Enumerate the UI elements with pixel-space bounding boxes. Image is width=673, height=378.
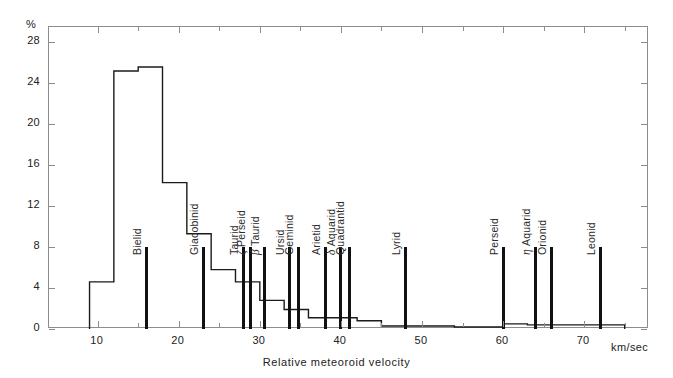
shower-label-perseid: Perseid (488, 218, 500, 255)
x-tick-minor-55 (463, 323, 464, 327)
shower-marker-perseid (502, 247, 505, 329)
shower-label-quadrantid: Quadrantid (334, 201, 346, 255)
greek-letter-glyph: β (249, 249, 261, 255)
shower-label-beta-taurid: β Taurid (249, 216, 261, 255)
x-tick-50 (422, 27, 423, 33)
x-tick-30 (260, 27, 261, 33)
x-tick-60 (503, 27, 504, 33)
x-tick-label-30: 30 (239, 334, 279, 346)
shower-marker-quadrantid (348, 247, 351, 329)
y-tick-16 (49, 165, 55, 166)
x-tick-20 (179, 321, 180, 327)
x-tick-minor-75 (625, 27, 626, 31)
x-tick-label-70: 70 (563, 334, 603, 346)
shower-marker-ursid (288, 247, 291, 329)
x-tick-40 (341, 321, 342, 327)
y-tick-24 (49, 83, 55, 84)
shower-label-arietid: Arietid (310, 224, 322, 255)
shower-label-giacobinid: Giacobinid (188, 203, 200, 255)
histogram-step-path (90, 67, 625, 329)
y-tick-0 (49, 329, 55, 330)
x-tick-minor-35 (300, 27, 301, 31)
plot-area: BielidGiacobinidTauridζ Perseidβ TauridU… (48, 26, 648, 328)
greek-letter-glyph: ζ (235, 250, 247, 255)
x-axis-unit-label: km/sec (611, 341, 648, 353)
y-tick-12 (641, 206, 647, 207)
x-axis-title: Relative meteoroid velocity (0, 356, 673, 368)
x-tick-10 (98, 27, 99, 33)
y-tick-label-4: 4 (10, 280, 40, 292)
y-tick-20 (641, 124, 647, 125)
y-tick-28 (641, 42, 647, 43)
y-tick-0 (641, 329, 647, 330)
x-tick-40 (341, 27, 342, 33)
shower-marker-bielid (145, 247, 148, 329)
y-tick-28 (49, 42, 55, 43)
shower-marker-giacobinid (202, 247, 205, 329)
x-tick-minor-15 (138, 27, 139, 31)
x-tick-label-20: 20 (158, 334, 198, 346)
y-tick-12 (49, 206, 55, 207)
y-tick-label-12: 12 (10, 198, 40, 210)
y-tick-label-24: 24 (10, 75, 40, 87)
x-tick-minor-15 (138, 323, 139, 327)
greek-letter-glyph: η (520, 249, 532, 255)
shower-marker-zeta-perseid (249, 247, 252, 329)
x-tick-minor-75 (625, 323, 626, 327)
y-tick-24 (641, 83, 647, 84)
x-tick-minor-65 (544, 27, 545, 31)
shower-marker-geminid (297, 247, 300, 329)
x-tick-70 (584, 27, 585, 33)
shower-marker-orionid (550, 247, 553, 329)
y-tick-20 (49, 124, 55, 125)
y-axis-unit-label: % (26, 18, 36, 30)
y-tick-label-20: 20 (10, 116, 40, 128)
x-tick-20 (179, 27, 180, 33)
shower-marker-beta-taurid (263, 247, 266, 329)
x-tick-minor-45 (381, 27, 382, 31)
x-tick-label-40: 40 (320, 334, 360, 346)
shower-marker-arietid (324, 247, 327, 329)
x-tick-50 (422, 321, 423, 327)
y-tick-4 (49, 288, 55, 289)
x-tick-10 (98, 321, 99, 327)
x-tick-minor-35 (300, 323, 301, 327)
shower-label-lyrid: Lyrid (390, 232, 402, 255)
shower-label-geminid: Geminid (283, 215, 295, 256)
y-tick-8 (641, 247, 647, 248)
shower-label-eta-aquarid: η Aquarid (520, 208, 532, 255)
x-tick-70 (584, 321, 585, 327)
x-tick-label-50: 50 (401, 334, 441, 346)
shower-label-leonid: Leonid (585, 222, 597, 255)
y-tick-4 (641, 288, 647, 289)
y-tick-label-8: 8 (10, 239, 40, 251)
y-tick-8 (49, 247, 55, 248)
y-tick-label-16: 16 (10, 157, 40, 169)
x-tick-60 (503, 321, 504, 327)
x-tick-minor-25 (219, 27, 220, 31)
x-tick-minor-55 (463, 27, 464, 31)
y-tick-label-0: 0 (10, 321, 40, 333)
shower-label-orionid: Orionid (536, 220, 548, 255)
shower-marker-leonid (599, 247, 602, 329)
shower-marker-eta-aquarid (534, 247, 537, 329)
shower-label-bielid: Bielid (131, 228, 143, 255)
shower-marker-taurid (242, 247, 245, 329)
x-tick-label-10: 10 (77, 334, 117, 346)
x-tick-minor-45 (381, 323, 382, 327)
x-tick-minor-65 (544, 323, 545, 327)
x-tick-30 (260, 321, 261, 327)
y-tick-label-28: 28 (10, 34, 40, 46)
x-tick-label-60: 60 (482, 334, 522, 346)
y-tick-16 (641, 165, 647, 166)
shower-marker-lyrid (404, 247, 407, 329)
meteoroid-velocity-chart: % BielidGiacobinidTauridζ Perseidβ Tauri… (0, 0, 673, 378)
shower-label-zeta-perseid: ζ Perseid (235, 210, 247, 255)
shower-marker-delta-aquarid (339, 247, 342, 329)
x-tick-minor-25 (219, 323, 220, 327)
